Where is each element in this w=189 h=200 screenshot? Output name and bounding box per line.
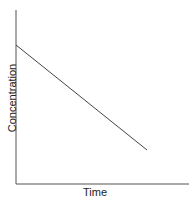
concentration-line [16,45,147,150]
chart-plot [0,0,189,200]
x-axis-label: Time [75,186,115,198]
y-axis-label: Concentration [6,48,18,148]
